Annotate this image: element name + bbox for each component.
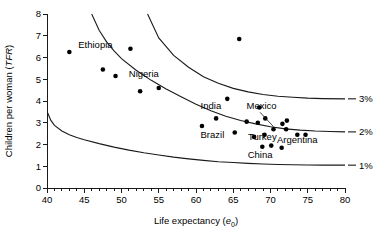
x-tick-label: 40 [42, 194, 53, 205]
x-tick-label: 70 [265, 194, 276, 205]
data-point [244, 119, 249, 124]
data-point [67, 50, 72, 55]
pct-label: 3% [359, 93, 373, 104]
percent-curve-labels: 3%2%1% [348, 93, 373, 170]
data-point [279, 145, 284, 150]
chart-canvas: 012345678404550556065707580 EthiopiaNige… [0, 0, 378, 238]
country-label: India [201, 100, 222, 111]
y-tick-label: 8 [36, 8, 41, 19]
y-tick-label: 7 [36, 30, 41, 41]
data-point [256, 120, 261, 125]
y-tick-label: 0 [36, 182, 41, 193]
country-label: Nigeria [129, 68, 160, 79]
x-tick-label: 60 [191, 194, 202, 205]
data-point [237, 37, 242, 42]
x-tick-label: 50 [116, 194, 127, 205]
data-point [156, 86, 161, 91]
y-tick-label: 6 [36, 52, 41, 63]
y-tick-label: 5 [36, 74, 41, 85]
data-point [232, 130, 237, 135]
country-label: Brazil [201, 129, 225, 140]
data-point [113, 74, 118, 79]
pct-label: 1% [359, 160, 373, 171]
country-label: Ethiopia [78, 39, 113, 50]
pct-label: 2% [359, 126, 373, 137]
data-point [284, 127, 289, 132]
data-point [128, 47, 133, 52]
x-tick-label: 80 [340, 194, 351, 205]
x-tick-label: 65 [228, 194, 239, 205]
data-point [138, 89, 143, 94]
y-tick-label: 4 [36, 95, 41, 106]
x-axis-title: Life expectancy (e0) [154, 215, 238, 228]
axis-tick-labels: 012345678404550556065707580 [36, 8, 351, 205]
data-point [101, 67, 106, 72]
x-tick-label: 55 [153, 194, 164, 205]
data-point [225, 97, 230, 102]
country-label: Argentina [277, 134, 318, 145]
data-point [285, 118, 290, 123]
y-axis-title: Children per woman (TFR) [3, 45, 14, 157]
y-tick-label: 1 [36, 161, 41, 172]
x-tick-label: 45 [79, 194, 90, 205]
x-tick-label: 75 [302, 194, 313, 205]
country-label: Turkey [248, 131, 277, 142]
y-tick-label: 3 [36, 117, 41, 128]
data-point [280, 122, 285, 127]
y-tick-label: 2 [36, 139, 41, 150]
country-labels: EthiopiaNigeriaIndiaMexicoBrazilTurkeyAr… [78, 39, 318, 160]
data-point [269, 143, 274, 148]
country-label: Mexico [247, 100, 277, 111]
data-point [214, 116, 219, 121]
data-point [200, 124, 205, 129]
scatter-chart-figure: 012345678404550556065707580 EthiopiaNige… [0, 0, 378, 238]
curve-3pct [148, 14, 345, 99]
country-label: China [248, 149, 274, 160]
